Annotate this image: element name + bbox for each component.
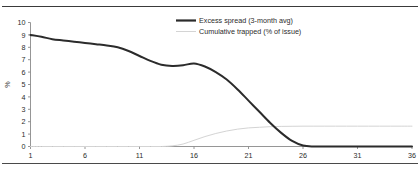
line-chart-plot: 012345678910%16111621263136Excess spread…	[0, 0, 420, 172]
x-axis-tick-label: 6	[83, 151, 87, 160]
y-axis-tick-label: 3	[22, 105, 26, 114]
y-axis-title: %	[3, 81, 12, 88]
y-axis-tick-label: 0	[22, 142, 26, 151]
x-axis-tick-label: 1	[29, 151, 33, 160]
chart-figure: 012345678910%16111621263136Excess spread…	[0, 0, 420, 172]
x-axis-tick-label: 26	[299, 151, 307, 160]
y-axis-tick-label: 10	[18, 18, 26, 27]
y-axis-tick-label: 7	[22, 55, 26, 64]
y-axis-tick-label: 9	[22, 31, 26, 40]
x-axis-tick-label: 11	[136, 151, 143, 160]
series-line-cumulative-trapped	[31, 126, 413, 146]
legend-label-excess-spread: Excess spread (3-month avg)	[199, 16, 293, 25]
y-axis-tick-label: 6	[22, 68, 26, 77]
x-axis-tick-label: 21	[245, 151, 253, 160]
legend-label-cumulative-trapped: Cumulative trapped (% of issue)	[199, 27, 301, 36]
y-axis-tick-label: 8	[22, 43, 26, 52]
y-axis-tick-label: 2	[22, 117, 26, 126]
y-axis-tick-label: 5	[22, 80, 26, 89]
x-axis-tick-label: 16	[190, 151, 198, 160]
chart-legend: Excess spread (3-month avg)Cumulative tr…	[176, 16, 301, 36]
y-axis-tick-label: 4	[22, 93, 26, 102]
series-line-excess-spread	[31, 35, 413, 147]
x-axis-tick-label: 36	[408, 151, 416, 160]
y-axis-tick-label: 1	[22, 130, 26, 139]
x-axis-tick-label: 31	[354, 151, 362, 160]
